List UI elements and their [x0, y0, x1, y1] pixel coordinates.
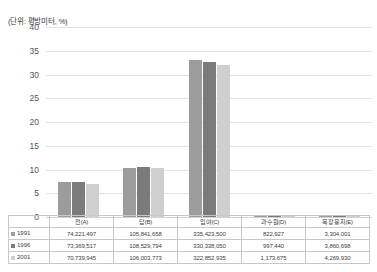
- bar-1996-cat1[interactable]: [72, 182, 85, 217]
- y-axis-tick-30: 30: [30, 70, 39, 80]
- bar-group-2: [111, 27, 176, 217]
- table-cell-r2-c5: 3,860,698: [306, 240, 370, 252]
- table-header-4: 과수원(D): [242, 216, 306, 228]
- bar-group-1: [46, 27, 111, 217]
- table-cell-r1-c2: 105,841,658: [114, 228, 178, 240]
- table-cell-r2-c4: 997,440: [242, 240, 306, 252]
- y-axis-tick-35: 35: [30, 46, 39, 56]
- table-header-1: 전(A): [50, 216, 114, 228]
- bar-1996-cat3[interactable]: [203, 62, 216, 217]
- data-table: 전(A)답(B)임야(C)과수원(D)목장용지(E) 199174,221,49…: [8, 215, 370, 264]
- legend-year-label: 1991: [17, 231, 30, 237]
- table-row: 199673,369,517108,529,794330,338,050997,…: [9, 240, 370, 252]
- table-cell-r1-c1: 74,221,497: [50, 228, 114, 240]
- table-cell-r3-c2: 106,003,773: [114, 252, 178, 264]
- table-header-5: 목장용지(E): [306, 216, 370, 228]
- legend-year-label: 2001: [17, 255, 30, 261]
- table-cell-r3-c5: 4,269,930: [306, 252, 370, 264]
- plot-area: 4035302520151050: [0, 27, 377, 217]
- table-body: 199174,221,497105,841,658335,423,500822,…: [9, 228, 370, 264]
- table-cell-r3-c4: 1,173,675: [242, 252, 306, 264]
- table-cell-r1-c3: 335,423,500: [178, 228, 242, 240]
- bar-group-5: [307, 27, 372, 217]
- table-cell-r2-c3: 330,338,050: [178, 240, 242, 252]
- bar-1991-cat2[interactable]: [123, 168, 136, 217]
- bar-2001-cat3[interactable]: [217, 65, 230, 217]
- table-cell-r3-c3: 322,852,935: [178, 252, 242, 264]
- bar-1991-cat3[interactable]: [189, 60, 202, 217]
- y-axis-tick-10: 10: [30, 165, 39, 175]
- table-header-2: 답(B): [114, 216, 178, 228]
- legend-swatch-icon: [11, 256, 15, 260]
- legend-year-label: 1996: [17, 243, 30, 249]
- table-cell-r1-c4: 822,927: [242, 228, 306, 240]
- table-row: 199174,221,497105,841,658335,423,500822,…: [9, 228, 370, 240]
- table-corner-cell: [9, 216, 50, 228]
- legend-swatch-icon: [11, 232, 15, 236]
- bar-group-4: [242, 27, 307, 217]
- table-header-3: 임야(C): [178, 216, 242, 228]
- table-cell-r3-c1: 70,739,945: [50, 252, 114, 264]
- legend-item-1996[interactable]: 1996: [9, 240, 50, 252]
- chart-page: (단위: 평방미터, %) 4035302520151050 전(A)답(B)임…: [0, 0, 377, 272]
- y-axis-tick-40: 40: [30, 22, 39, 32]
- y-axis-tick-5: 5: [34, 188, 39, 198]
- data-table-wrapper: 전(A)답(B)임야(C)과수원(D)목장용지(E) 199174,221,49…: [8, 215, 370, 264]
- table-row: 200170,739,945106,003,773322,852,9351,17…: [9, 252, 370, 264]
- bar-series-layer: [46, 27, 372, 217]
- table-cell-r2-c2: 108,529,794: [114, 240, 178, 252]
- bar-2001-cat2[interactable]: [151, 168, 164, 217]
- y-axis: 4035302520151050: [0, 27, 45, 217]
- bar-1991-cat1[interactable]: [58, 182, 71, 217]
- bar-1996-cat2[interactable]: [137, 167, 150, 217]
- legend-swatch-icon: [11, 244, 15, 248]
- table-cell-r1-c5: 3,304,001: [306, 228, 370, 240]
- table-header-row: 전(A)답(B)임야(C)과수원(D)목장용지(E): [9, 216, 370, 228]
- y-axis-tick-25: 25: [30, 93, 39, 103]
- y-axis-tick-15: 15: [30, 141, 39, 151]
- bar-group-3: [176, 27, 241, 217]
- y-axis-tick-20: 20: [30, 117, 39, 127]
- bar-2001-cat1[interactable]: [86, 184, 99, 217]
- legend-item-2001[interactable]: 2001: [9, 252, 50, 264]
- legend-item-1991[interactable]: 1991: [9, 228, 50, 240]
- table-cell-r2-c1: 73,369,517: [50, 240, 114, 252]
